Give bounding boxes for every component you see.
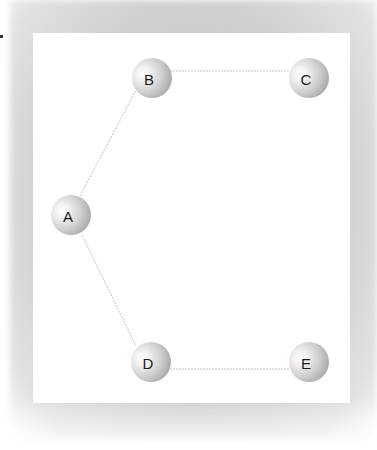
node-a[interactable]: A (51, 195, 91, 235)
node-e-label: E (301, 355, 311, 372)
node-b-label: B (144, 71, 154, 88)
node-d[interactable]: D (131, 342, 171, 382)
edge-a-d (82, 235, 136, 346)
node-b[interactable]: B (132, 58, 172, 98)
edge-a-b (80, 90, 136, 196)
node-e[interactable]: E (289, 342, 329, 382)
node-c[interactable]: C (289, 58, 329, 98)
node-c-label: C (301, 71, 312, 88)
node-d-label: D (143, 355, 154, 372)
node-a-label: A (63, 208, 73, 225)
